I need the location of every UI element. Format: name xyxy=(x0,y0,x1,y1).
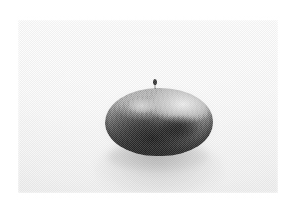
page-root xyxy=(0,0,296,207)
object-body xyxy=(105,88,213,156)
dark-oval-object xyxy=(105,88,213,156)
top-speck xyxy=(153,79,157,85)
halftone-photograph xyxy=(18,20,278,193)
